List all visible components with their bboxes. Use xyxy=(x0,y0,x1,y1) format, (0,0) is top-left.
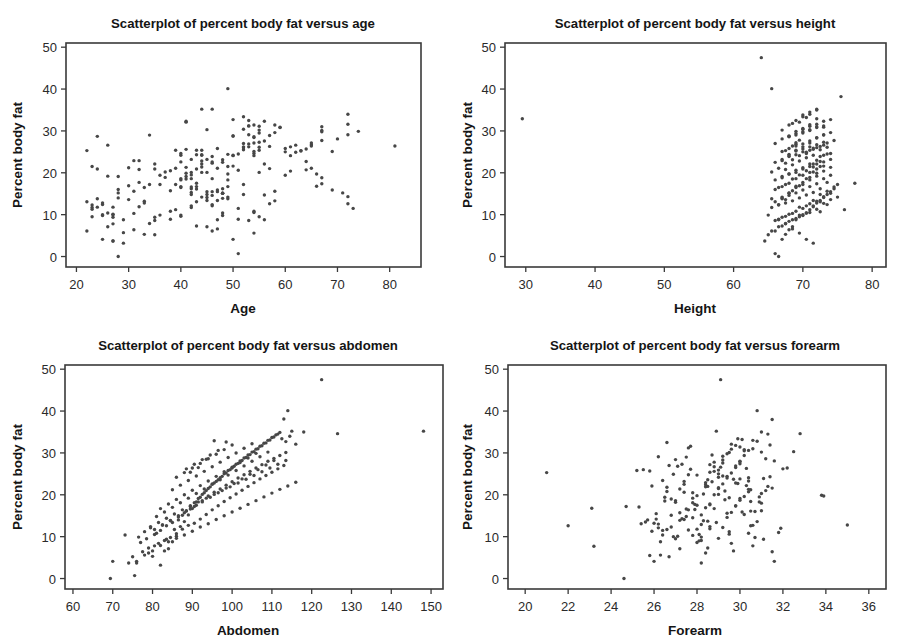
data-point xyxy=(717,493,720,496)
data-point xyxy=(96,205,99,208)
data-point xyxy=(96,135,99,138)
data-point xyxy=(808,110,811,113)
data-point xyxy=(122,241,125,244)
data-point xyxy=(248,470,251,473)
data-point xyxy=(738,477,741,480)
data-point xyxy=(812,199,815,202)
data-point xyxy=(822,177,825,180)
data-point xyxy=(791,158,794,161)
data-point xyxy=(393,144,396,147)
data-point xyxy=(224,440,227,443)
data-point xyxy=(193,505,196,508)
data-point xyxy=(808,202,811,205)
data-point xyxy=(661,479,664,482)
data-point xyxy=(791,199,794,202)
data-point xyxy=(165,524,168,527)
data-point xyxy=(276,467,279,470)
data-point xyxy=(226,195,229,198)
data-point xyxy=(780,128,783,131)
data-point xyxy=(167,540,170,543)
data-point xyxy=(273,199,276,202)
data-point xyxy=(247,145,250,148)
data-point xyxy=(276,463,279,466)
data-point xyxy=(346,112,349,115)
data-point xyxy=(286,409,289,412)
data-point xyxy=(808,211,811,214)
data-point xyxy=(784,149,787,152)
data-point xyxy=(723,498,726,501)
data-point xyxy=(310,141,313,144)
data-point xyxy=(179,215,182,218)
data-point xyxy=(117,175,120,178)
data-point xyxy=(346,123,349,126)
data-point xyxy=(665,441,668,444)
data-point xyxy=(794,148,797,151)
data-point xyxy=(812,165,815,168)
data-point xyxy=(685,455,688,458)
x-tick-label: 26 xyxy=(647,599,661,614)
data-point xyxy=(195,182,198,185)
data-point xyxy=(721,482,724,485)
data-point xyxy=(137,181,140,184)
data-point xyxy=(242,473,245,476)
data-point xyxy=(734,444,737,447)
data-point xyxy=(667,464,670,467)
data-point xyxy=(153,219,156,222)
data-point xyxy=(273,131,276,134)
data-point xyxy=(250,460,253,463)
data-point xyxy=(163,549,166,552)
data-point xyxy=(691,501,694,504)
data-point xyxy=(224,483,227,486)
data-point xyxy=(161,523,164,526)
data-point xyxy=(815,200,818,203)
data-point xyxy=(195,148,198,151)
data-point xyxy=(149,525,152,528)
data-point xyxy=(147,546,150,549)
data-point xyxy=(751,447,754,450)
data-point xyxy=(143,186,146,189)
data-point xyxy=(96,167,99,170)
data-point xyxy=(794,184,797,187)
data-point xyxy=(832,139,835,142)
data-point xyxy=(101,238,104,241)
data-point xyxy=(784,198,787,201)
data-point xyxy=(815,125,818,128)
data-point xyxy=(646,518,649,521)
data-point xyxy=(346,133,349,136)
data-point xyxy=(252,141,255,144)
data-point xyxy=(197,466,200,469)
x-tick-label: 110 xyxy=(262,599,283,614)
x-tick-label: 80 xyxy=(145,599,159,614)
data-point xyxy=(163,170,166,173)
data-point xyxy=(132,159,135,162)
data-point xyxy=(706,546,709,549)
data-point xyxy=(288,434,291,437)
data-point xyxy=(254,452,257,455)
data-point xyxy=(670,525,673,528)
data-point xyxy=(216,491,219,494)
data-point xyxy=(205,458,208,461)
data-point xyxy=(290,429,293,432)
data-point xyxy=(247,124,250,127)
data-point xyxy=(252,154,255,157)
data-point xyxy=(106,174,109,177)
y-tick-label: 30 xyxy=(42,446,56,461)
data-point xyxy=(822,141,825,144)
data-point xyxy=(715,429,718,432)
data-point xyxy=(252,123,255,126)
data-point xyxy=(710,453,713,456)
data-point xyxy=(147,551,150,554)
chart-bodyfat-vs-forearm: Scatterplot of percent body fat versus f… xyxy=(450,322,900,644)
data-point xyxy=(747,479,750,482)
data-point xyxy=(195,187,198,190)
data-point xyxy=(169,169,172,172)
data-point xyxy=(812,170,815,173)
data-point xyxy=(829,198,832,201)
data-point xyxy=(725,475,728,478)
data-point xyxy=(143,233,146,236)
data-point xyxy=(794,143,797,146)
data-point xyxy=(801,166,804,169)
data-point xyxy=(749,524,752,527)
data-point xyxy=(815,174,818,177)
panel-bodyfat-vs-height: Scatterplot of percent body fat versus h… xyxy=(450,0,900,322)
